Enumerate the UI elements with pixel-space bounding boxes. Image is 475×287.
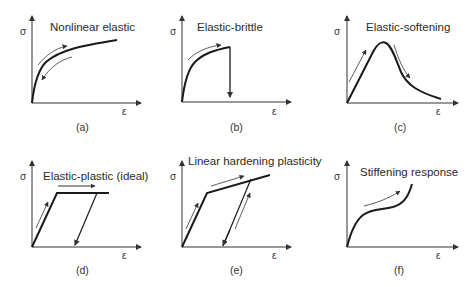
- stress-strain-curve: [32, 40, 117, 103]
- panel-label: (a): [76, 121, 89, 133]
- panel-label: (d): [76, 264, 89, 276]
- panel-e: σ ε Linear hardening plasticity (e): [170, 155, 322, 276]
- loading-arrow: [38, 46, 67, 65]
- panel-title: Stiffening response: [360, 166, 458, 178]
- stress-strain-diagram: σ ε Nonlinear elastic (a) σ ε Elastic-br…: [0, 0, 475, 287]
- loading-arrow: [349, 50, 366, 82]
- panel-f: σ ε Stiffening response (f): [334, 161, 458, 276]
- panel-label: (f): [394, 264, 404, 276]
- y-axis-label: σ: [170, 171, 177, 182]
- y-axis-label: σ: [20, 26, 27, 37]
- x-axis-label: ε: [122, 106, 127, 117]
- y-axis-label: σ: [334, 26, 341, 37]
- unloading-arrowhead: [223, 230, 230, 245]
- stiffening-curve: [347, 184, 412, 247]
- panel-title: Elastic-brittle: [197, 21, 263, 33]
- panel-label: (e): [230, 264, 243, 276]
- panel-d: σ ε Elastic-plastic (ideal) (d): [20, 161, 149, 276]
- hardening-curve: [182, 175, 270, 247]
- x-axis-label: ε: [272, 106, 277, 117]
- panel-c: σ ε Elastic-softening (c): [334, 16, 458, 133]
- x-axis-label: ε: [272, 250, 277, 261]
- x-axis-label: ε: [122, 250, 127, 261]
- panel-label: (b): [230, 121, 243, 133]
- stress-strain-curve: [347, 42, 441, 103]
- loading-arrow: [364, 191, 400, 206]
- panel-title: Nonlinear elastic: [50, 21, 135, 33]
- panel-label: (c): [394, 121, 406, 133]
- stress-strain-curve: [182, 47, 230, 102]
- panel-a: σ ε Nonlinear elastic (a): [20, 16, 141, 133]
- panel-title: Linear hardening plasticity: [188, 155, 322, 167]
- y-axis-label: σ: [334, 171, 341, 182]
- x-axis-label: ε: [436, 250, 441, 261]
- elastic-plastic-curve: [32, 193, 109, 247]
- unloading-line: [75, 193, 97, 245]
- panel-b: σ ε Elastic-brittle (b): [170, 16, 291, 133]
- panel-title: Elastic-plastic (ideal): [43, 170, 149, 182]
- y-axis-label: σ: [170, 26, 177, 37]
- x-axis-label: ε: [436, 106, 441, 117]
- loading-arrow: [188, 45, 221, 60]
- y-axis-label: σ: [20, 171, 27, 182]
- panel-title: Elastic-softening: [366, 21, 450, 33]
